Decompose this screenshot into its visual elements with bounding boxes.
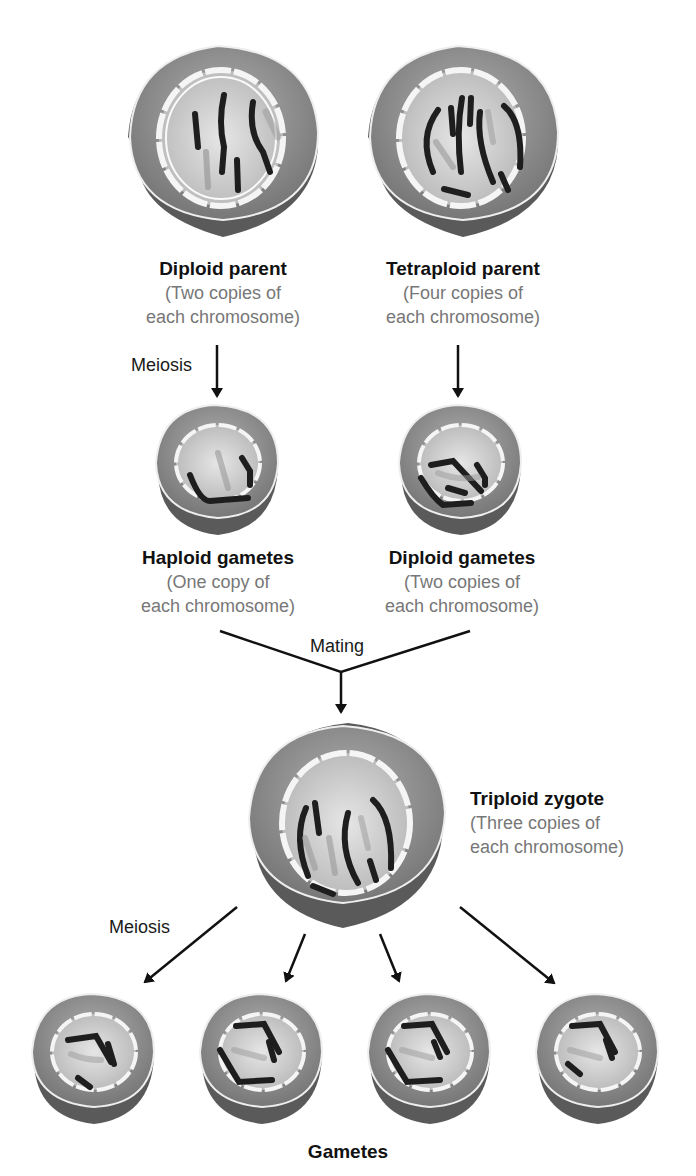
final-gametes-title: Gametes [248, 1140, 448, 1164]
triploid-zygote-label: Triploid zygote (Three copies of each ch… [470, 787, 690, 859]
diploid-gametes-desc-1: (Two copies of [362, 570, 562, 594]
diploid-parent-cell [118, 42, 328, 242]
tetraploid-parent-cell [358, 42, 568, 242]
diploid-parent-desc-1: (Two copies of [118, 281, 328, 305]
triploid-zygote-desc-1: (Three copies of [470, 811, 690, 835]
haploid-gametes-title: Haploid gametes [118, 546, 318, 570]
tetraploid-parent-label: Tetraploid parent (Four copies of each c… [358, 257, 568, 329]
triploid-zygote-cell [243, 718, 453, 933]
final-gametes-label: Gametes [248, 1140, 448, 1164]
diploid-gametes-title: Diploid gametes [362, 546, 562, 570]
mating-label: Mating [310, 636, 364, 657]
meiosis-label-bottom: Meiosis [109, 917, 170, 938]
gamete-cell-3 [362, 992, 497, 1127]
triploid-zygote-desc-2: each chromosome) [470, 835, 690, 859]
diploid-gametes-label: Diploid gametes (Two copies of each chro… [362, 546, 562, 618]
tetraploid-parent-title: Tetraploid parent [358, 257, 568, 281]
tetraploid-parent-desc-2: each chromosome) [358, 305, 568, 329]
diploid-parent-label: Diploid parent (Two copies of each chrom… [118, 257, 328, 329]
diploid-parent-desc-2: each chromosome) [118, 305, 328, 329]
haploid-gamete-cell [150, 403, 285, 538]
gamete-cell-2 [194, 992, 329, 1127]
tetraploid-parent-desc-1: (Four copies of [358, 281, 568, 305]
diploid-parent-title: Diploid parent [118, 257, 328, 281]
haploid-gametes-desc-2: each chromosome) [118, 594, 318, 618]
meiosis-label-top: Meiosis [131, 355, 192, 376]
triploid-zygote-title: Triploid zygote [470, 787, 690, 811]
haploid-gametes-desc-1: (One copy of [118, 570, 318, 594]
diploid-gamete-cell [393, 403, 528, 538]
gamete-cell-1 [26, 992, 161, 1127]
haploid-gametes-label: Haploid gametes (One copy of each chromo… [118, 546, 318, 618]
gamete-cell-4 [530, 992, 665, 1127]
diploid-gametes-desc-2: each chromosome) [362, 594, 562, 618]
